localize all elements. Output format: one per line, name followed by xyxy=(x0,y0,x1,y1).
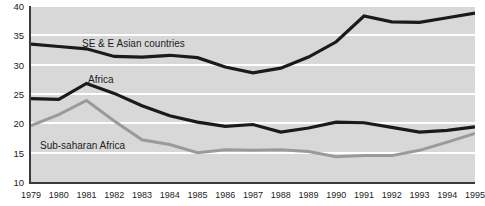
x-axis-line xyxy=(29,182,475,184)
x-tick-label-1995: 1995 xyxy=(465,190,485,200)
x-tick-label-1986: 1986 xyxy=(215,190,235,200)
y-tick-label-25: 25 xyxy=(0,89,24,100)
series-label-africa: Africa xyxy=(88,74,114,85)
x-tick-label-1987: 1987 xyxy=(243,190,263,200)
x-tick-label-1988: 1988 xyxy=(271,190,291,200)
y-tick-label-30: 30 xyxy=(0,59,24,70)
x-tick-label-1991: 1991 xyxy=(354,190,374,200)
x-tick-label-1994: 1994 xyxy=(437,190,457,200)
plot-area xyxy=(31,6,475,182)
y-axis-line xyxy=(29,6,31,184)
y-axis-tick-labels: 10152025303540 xyxy=(0,0,27,206)
series-label-se-e-asian-countries: SE & E Asian countries xyxy=(82,38,185,49)
y-tick-label-20: 20 xyxy=(0,118,24,129)
x-tick-label-1980: 1980 xyxy=(49,190,69,200)
series-layer xyxy=(31,6,475,182)
x-tick-label-1992: 1992 xyxy=(382,190,402,200)
x-tick-label-1989: 1989 xyxy=(298,190,318,200)
y-tick-label-15: 15 xyxy=(0,147,24,158)
y-tick-label-35: 35 xyxy=(0,30,24,41)
x-tick-label-1983: 1983 xyxy=(132,190,152,200)
x-tick-label-1993: 1993 xyxy=(409,190,429,200)
x-tick-label-1979: 1979 xyxy=(21,190,41,200)
y-tick-label-40: 40 xyxy=(0,1,24,12)
x-tick-label-1981: 1981 xyxy=(76,190,96,200)
series-label-sub-saharan-africa: Sub-saharan Africa xyxy=(40,140,125,151)
x-tick-label-1982: 1982 xyxy=(104,190,124,200)
y-tick-label-10: 10 xyxy=(0,177,24,188)
x-tick-label-1984: 1984 xyxy=(160,190,180,200)
x-tick-label-1985: 1985 xyxy=(187,190,207,200)
x-tick-label-1990: 1990 xyxy=(326,190,346,200)
